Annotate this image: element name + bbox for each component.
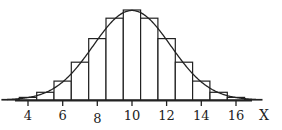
x-tick-label: 16	[228, 108, 245, 123]
histogram-bar	[175, 62, 192, 100]
histogram-bar	[54, 81, 71, 100]
histogram-bar	[193, 81, 210, 100]
x-tick-label: 14	[193, 108, 210, 123]
histogram-bar	[71, 62, 88, 100]
histogram-bar	[106, 18, 123, 100]
x-axis-title: X	[259, 107, 269, 123]
x-axis-ticks: 46810121416	[24, 100, 244, 126]
histogram-chart: 46810121416 X	[0, 0, 282, 130]
x-tick-label: 6	[59, 108, 67, 123]
histogram-bar	[37, 92, 54, 100]
x-tick-label: 10	[124, 108, 141, 123]
histogram-bar	[210, 92, 227, 100]
histogram-bars	[2, 10, 262, 100]
histogram-bar	[141, 18, 158, 100]
x-tick-label: 12	[158, 108, 175, 123]
x-tick-label: 8	[93, 111, 101, 126]
x-tick-label: 4	[24, 108, 32, 123]
histogram-bar	[123, 10, 140, 100]
